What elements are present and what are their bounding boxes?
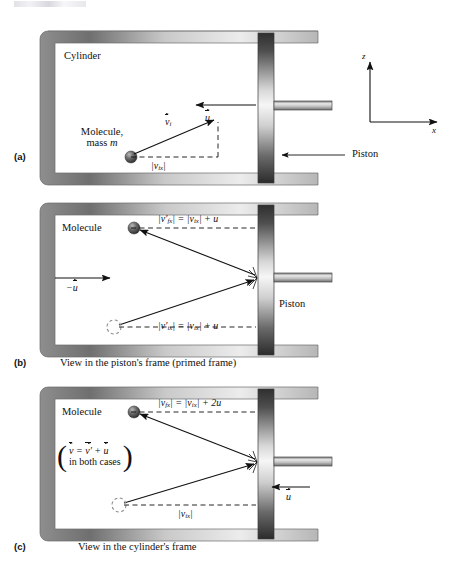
piston-label-a: Piston [352,148,378,159]
molecule-initial-ghost-c [112,498,126,512]
panel-tag-b: (b) [14,358,26,368]
molecule-label-a-line2: mass m [86,137,117,148]
panel-tag-a: (a) [14,152,26,162]
piston-velocity-label-a: u [205,113,210,124]
piston-c [258,389,332,539]
frame-relation-note-c: ( v = v′ + u in both cases ) [57,444,133,469]
impact-burst-b [248,267,257,289]
piston-velocity-label-c: u [286,492,291,503]
component-label-a: |vix| [151,161,166,172]
impact-burst-c [248,451,257,473]
panel-tag-c: (c) [14,542,26,552]
axis-label-z: z [362,52,366,61]
molecule-label-a-line1: Molecule, [81,126,123,137]
frame-velocity-label-b: −u [66,283,78,294]
molecule-label-c: Molecule [62,406,102,417]
mass-symbol-a: m [110,137,118,148]
outgoing-trajectory-c [140,414,255,459]
velocity-vector-a [134,120,214,154]
note-second-line: in both cases [69,456,121,467]
incoming-trajectory-c [124,464,254,503]
piston-b [258,205,332,355]
formula-bottom-c: |vix| [178,509,193,520]
scan-artifact [14,1,86,7]
physics-figure-molecule-piston-collision: (a) Cylinder Molecule, mass m vi u |vix|… [0,0,469,563]
velocity-vector-label-a: vi [165,117,171,128]
right-paren: ) [123,444,133,469]
formula-top-c: |vfx| = |vix| + 2u [158,398,221,409]
molecule-initial-ghost-b [107,320,121,334]
molecule-label-a: Molecule, mass m [71,126,133,148]
caption-b: View in the piston's frame (primed frame… [60,357,236,368]
molecule-label-b: Molecule [62,222,102,233]
axis-label-x: x [432,126,436,135]
piston-label-b: Piston [279,298,305,309]
coordinate-axes [370,62,437,122]
outgoing-trajectory-b [140,230,255,275]
caption-c: View in the cylinder's frame [78,541,196,552]
formula-top-b: |v′fx| = |vix| + u [158,214,218,225]
cylinder-label-a: Cylinder [64,50,101,61]
left-paren: ( [57,444,67,469]
incoming-trajectory-b [119,280,254,325]
formula-bottom-b: |v′ix| = |vix| + u [158,321,218,332]
piston-a [258,33,332,183]
note-equation-line: v = v′ + u [69,445,109,456]
